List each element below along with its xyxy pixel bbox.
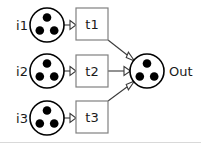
arc-t3-out: [108, 81, 135, 101]
transition-t1[interactable]: t1: [76, 8, 108, 40]
place-i1-label: i1: [16, 18, 28, 33]
place-i3-token-2: [36, 119, 45, 128]
place-i2-circle[interactable]: [30, 54, 64, 88]
arc-t3-out-arrowhead: [126, 81, 134, 90]
place-i1-token-3: [50, 26, 59, 35]
place-i3-label: i3: [16, 111, 28, 126]
transition-t1-label: t1: [85, 17, 98, 32]
place-i2[interactable]: [30, 54, 64, 88]
place-out-token-3: [150, 72, 159, 81]
place-i3-token-3: [50, 119, 59, 128]
place-i1[interactable]: [30, 8, 64, 42]
place-i3-circle[interactable]: [30, 101, 64, 135]
place-i3-token-1: [43, 106, 52, 115]
place-i2-token-1: [43, 59, 52, 68]
place-i2-token-3: [50, 72, 59, 81]
transition-t3[interactable]: t3: [76, 101, 108, 133]
arc-i1-t1-arrowhead: [70, 21, 76, 30]
arc-i2-t2-arrowhead: [70, 67, 76, 76]
transition-t3-label: t3: [85, 110, 98, 125]
petri-net-diagram: i1 i2 i3 t1 t2 t3: [0, 0, 201, 143]
place-i1-token-2: [36, 26, 45, 35]
place-i2-token-2: [36, 72, 45, 81]
place-i3[interactable]: [30, 101, 64, 135]
place-out-label: Out: [169, 64, 193, 79]
arc-t1-out-arrowhead: [126, 52, 134, 61]
arc-i2-t2: [64, 67, 76, 76]
place-i1-token-1: [43, 13, 52, 22]
place-out-token-2: [136, 72, 145, 81]
place-i1-circle[interactable]: [30, 8, 64, 42]
place-i2-label: i2: [16, 64, 28, 79]
arc-i3-t3-arrowhead: [70, 114, 76, 123]
place-out-token-1: [143, 59, 152, 68]
arc-t2-out: [108, 67, 131, 76]
transition-t2[interactable]: t2: [76, 55, 108, 87]
diagram-canvas: i1 i2 i3 t1 t2 t3: [0, 0, 201, 143]
place-out[interactable]: [130, 54, 164, 88]
transition-t2-label: t2: [85, 64, 98, 79]
arc-i1-t1: [64, 21, 76, 30]
arc-i3-t3: [64, 114, 76, 123]
place-out-circle[interactable]: [130, 54, 164, 88]
arc-t1-out: [108, 40, 135, 61]
